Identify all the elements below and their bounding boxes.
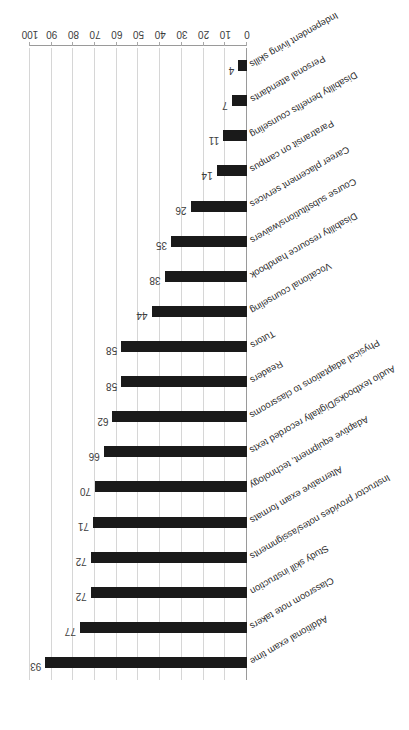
bar[interactable] (165, 271, 247, 282)
value-tick-label-90: 90 (46, 29, 57, 40)
bar[interactable] (95, 481, 247, 492)
bar-value-label: 71 (78, 521, 89, 532)
bar[interactable] (223, 130, 247, 141)
category-label: Course substitutions/waivers (248, 176, 358, 246)
bar-row: 4 (30, 48, 247, 83)
bar-row: 66 (30, 434, 247, 469)
bar[interactable] (91, 587, 247, 598)
bar-chart-figure: 9377727271706662585844383526141174 01020… (0, 0, 409, 730)
bar-row: 14 (30, 153, 247, 188)
bar-row: 44 (30, 294, 247, 329)
tick-mark-90 (51, 42, 52, 46)
bar-row: 35 (30, 224, 247, 259)
bar[interactable] (152, 306, 247, 317)
bar-value-label: 38 (149, 275, 160, 286)
bar-row: 7 (30, 83, 247, 118)
value-tick-label-50: 50 (133, 29, 144, 40)
bar-row: 26 (30, 188, 247, 223)
tick-mark-0 (246, 42, 247, 46)
value-tick-label-40: 40 (155, 29, 166, 40)
rotated-figure-wrapper: 9377727271706662585844383526141174 01020… (0, 0, 409, 730)
bar-value-label: 72 (76, 556, 87, 567)
bar-value-label: 58 (106, 381, 117, 392)
bar-value-label: 35 (156, 240, 167, 251)
bar-row: 71 (30, 504, 247, 539)
bar[interactable] (121, 341, 247, 352)
bar-value-label: 62 (97, 416, 108, 427)
tick-mark-30 (181, 42, 182, 46)
bar-row: 72 (30, 575, 247, 610)
bar[interactable] (45, 657, 247, 668)
bar[interactable] (232, 95, 247, 106)
bar-value-label: 26 (175, 205, 186, 216)
category-label: Readers (248, 359, 285, 386)
category-label: Tutors (248, 328, 277, 351)
value-tick-label-70: 70 (90, 29, 101, 40)
plot-area: 9377727271706662585844383526141174 (30, 48, 247, 680)
bar-row: 38 (30, 259, 247, 294)
bar-value-label: 11 (209, 135, 219, 146)
bar-value-label: 70 (80, 486, 91, 497)
value-tick-label-20: 20 (198, 29, 209, 40)
bar[interactable] (112, 411, 247, 422)
value-tick-label-80: 80 (68, 29, 79, 40)
category-axis: Additional exam timeClassroom note taker… (247, 48, 409, 680)
bar[interactable] (80, 622, 247, 633)
value-tick-label-60: 60 (111, 29, 122, 40)
tick-mark-40 (159, 42, 160, 46)
bar[interactable] (171, 236, 247, 247)
value-tick-label-100: 100 (22, 29, 39, 40)
bar-row: 72 (30, 540, 247, 575)
category-label: Disability benefits counseling (248, 70, 359, 141)
bar-value-label: 4 (229, 65, 235, 76)
bar[interactable] (93, 517, 247, 528)
bar-row: 58 (30, 364, 247, 399)
bar[interactable] (191, 201, 247, 212)
tick-mark-80 (72, 42, 73, 46)
bar[interactable] (104, 446, 247, 457)
value-tick-label-0: 0 (244, 29, 250, 40)
bar-row: 70 (30, 469, 247, 504)
bar-value-label: 58 (106, 346, 117, 357)
bar-value-label: 14 (202, 170, 213, 181)
value-tick-label-30: 30 (176, 29, 187, 40)
value-tick-label-10: 10 (220, 29, 231, 40)
tick-mark-10 (224, 42, 225, 46)
bar-row: 93 (30, 645, 247, 680)
bar-value-label: 77 (65, 626, 76, 637)
bar-row: 58 (30, 329, 247, 364)
bar[interactable] (217, 165, 247, 176)
category-label: Career placement services (248, 145, 351, 211)
value-axis-spine (30, 45, 247, 46)
tick-mark-100 (29, 42, 30, 46)
bar[interactable] (238, 60, 247, 71)
bar-value-label: 72 (76, 591, 87, 602)
bar-value-label: 7 (222, 100, 228, 111)
bar-value-label: 44 (136, 310, 147, 321)
bar-value-label: 93 (30, 662, 41, 673)
bar-value-label: 66 (89, 451, 100, 462)
bar-row: 11 (30, 118, 247, 153)
bar[interactable] (91, 552, 247, 563)
bar[interactable] (121, 376, 247, 387)
value-axis: 0102030405060708090100 (30, 16, 247, 46)
tick-mark-70 (94, 42, 95, 46)
bar-row: 77 (30, 610, 247, 645)
bar-row: 62 (30, 399, 247, 434)
tick-mark-20 (203, 42, 204, 46)
tick-mark-60 (116, 42, 117, 46)
tick-mark-50 (138, 42, 139, 46)
category-label: Disability resource handbook (248, 210, 359, 281)
